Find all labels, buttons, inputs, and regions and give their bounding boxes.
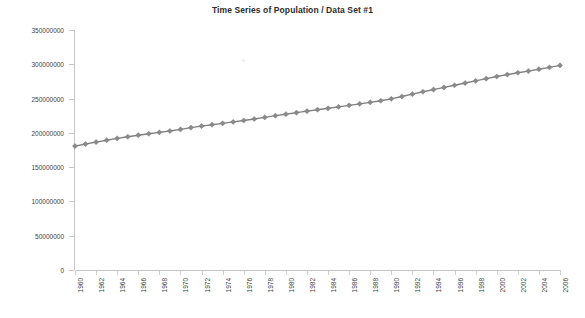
x-axis-label: 1976 (247, 278, 254, 292)
y-axis-tick (69, 133, 74, 134)
series-data-point (368, 100, 373, 105)
series-data-point (136, 133, 141, 138)
x-axis-label: 1982 (310, 278, 317, 292)
x-axis-tick (117, 271, 118, 275)
x-axis-tick (349, 271, 350, 275)
x-axis-tick (476, 271, 477, 275)
series-data-point (399, 94, 404, 99)
series-data-point (262, 115, 267, 120)
y-axis-tick (69, 270, 74, 271)
series-data-point (199, 123, 204, 128)
series-data-point (463, 80, 468, 85)
x-axis-tick (328, 271, 329, 275)
series-data-point (283, 112, 288, 117)
x-axis-label: 1988 (373, 278, 380, 292)
x-axis-label: 1986 (352, 278, 359, 292)
x-axis-label: 1970 (183, 278, 190, 292)
series-data-point (93, 139, 98, 144)
x-axis-label: 1990 (394, 278, 401, 292)
x-axis-label: 2002 (521, 278, 528, 292)
series-data-point (252, 116, 257, 121)
x-axis-label: 1984 (331, 278, 338, 292)
x-axis-tick (286, 271, 287, 275)
series-data-point (494, 74, 499, 79)
y-axis-label: 350000000 (0, 27, 64, 34)
series-data-point (526, 68, 531, 73)
stray-artifact-mark (242, 59, 245, 62)
series-data-point (557, 63, 562, 68)
y-axis-label: 100000000 (0, 198, 64, 205)
y-axis-label: 200000000 (0, 129, 64, 136)
x-axis-tick (96, 271, 97, 275)
x-axis-tick (265, 271, 266, 275)
x-axis-tick (159, 271, 160, 275)
x-axis-label: 2004 (542, 278, 549, 292)
series-data-point (104, 138, 109, 143)
x-axis-tick (307, 271, 308, 275)
x-axis-label: 2000 (500, 278, 507, 292)
x-axis-tick (412, 271, 413, 275)
y-axis-line (74, 30, 75, 270)
series-data-point (536, 67, 541, 72)
y-axis-label: 300000000 (0, 61, 64, 68)
x-axis-label: 1962 (99, 278, 106, 292)
series-data-point (304, 109, 309, 114)
x-axis-label: 1978 (268, 278, 275, 292)
series-data-point (347, 103, 352, 108)
series-data-point (378, 98, 383, 103)
x-axis-tick (455, 271, 456, 275)
series-data-point (325, 106, 330, 111)
series-data-point (547, 65, 552, 70)
x-axis-label: 1968 (162, 278, 169, 292)
x-axis-tick (539, 271, 540, 275)
series-data-point (410, 92, 415, 97)
x-axis-label: 1974 (226, 278, 233, 292)
x-axis-tick (370, 271, 371, 275)
x-axis-label: 1960 (78, 278, 85, 292)
x-axis-label: 1980 (289, 278, 296, 292)
x-axis-label: 1992 (415, 278, 422, 292)
y-axis-tick (69, 99, 74, 100)
x-axis-tick (180, 271, 181, 275)
series-data-point (125, 134, 130, 139)
series-data-point (315, 107, 320, 112)
series-data-point (115, 136, 120, 141)
x-axis-tick (497, 271, 498, 275)
y-axis-tick (69, 236, 74, 237)
x-axis-label: 1964 (120, 278, 127, 292)
x-axis-tick (518, 271, 519, 275)
x-axis-tick (560, 271, 561, 275)
y-axis-tick (69, 167, 74, 168)
x-axis-tick (391, 271, 392, 275)
series-data-point (505, 72, 510, 77)
x-axis-tick (223, 271, 224, 275)
series-data-point (178, 127, 183, 132)
y-axis-label: 50000000 (0, 232, 64, 239)
chart-title: Time Series of Population / Data Set #1 (0, 5, 585, 15)
x-axis-label: 1972 (205, 278, 212, 292)
chart-container: Time Series of Population / Data Set #1 … (0, 0, 585, 318)
y-axis-tick (69, 201, 74, 202)
y-axis-tick (69, 30, 74, 31)
series-data-point (441, 85, 446, 90)
x-axis-label: 2006 (563, 278, 570, 292)
series-data-point (83, 141, 88, 146)
y-axis-label: 0 (0, 267, 64, 274)
x-axis-tick (244, 271, 245, 275)
series-data-point (420, 89, 425, 94)
x-axis-label: 1966 (141, 278, 148, 292)
series-data-point (241, 118, 246, 123)
series-data-point (188, 125, 193, 130)
x-axis-label: 1994 (436, 278, 443, 292)
series-data-point (157, 130, 162, 135)
x-axis-tick (202, 271, 203, 275)
x-axis-label: 1998 (479, 278, 486, 292)
series-data-point (231, 119, 236, 124)
series-markers-population (72, 63, 562, 149)
y-axis-label: 250000000 (0, 95, 64, 102)
series-data-point (389, 96, 394, 101)
series-data-point (167, 128, 172, 133)
series-data-point (515, 70, 520, 75)
x-axis-tick (433, 271, 434, 275)
series-data-point (484, 76, 489, 81)
